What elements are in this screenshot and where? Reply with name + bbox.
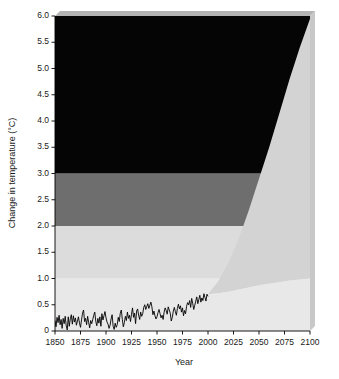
y-tick-label: 0 <box>15 325 49 335</box>
y-tick-label: 1.5 <box>15 246 49 256</box>
plot-depth-right-face <box>310 11 315 331</box>
y-tick-label: 5.5 <box>15 36 49 46</box>
x-tick-label: 2100 <box>294 337 326 347</box>
chart-canvas <box>0 0 339 379</box>
y-tick-label: 2.5 <box>15 194 49 204</box>
y-tick-label: 3.5 <box>15 141 49 151</box>
y-tick-label: 4.5 <box>15 89 49 99</box>
y-tick-label: 0.5 <box>15 299 49 309</box>
y-tick-label: 2.0 <box>15 220 49 230</box>
x-axis-title: Year <box>55 357 313 367</box>
plot-depth-top-face <box>55 11 315 16</box>
y-tick-label: 6.0 <box>15 10 49 20</box>
y-tick-label: 5.0 <box>15 63 49 73</box>
y-tick-label: 4.0 <box>15 115 49 125</box>
climate-projection-chart: Change in temperature (°C) Year 00.51.01… <box>0 0 339 379</box>
y-tick-label: 1.0 <box>15 273 49 283</box>
y-tick-label: 3.0 <box>15 168 49 178</box>
